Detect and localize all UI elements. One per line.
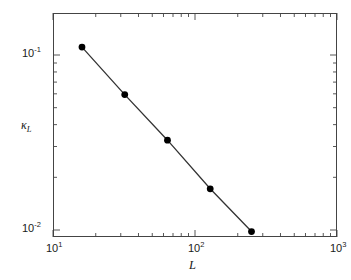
x-axis-title-symbol: L (189, 258, 196, 272)
x-tick-label-1e2: 102 (188, 243, 204, 254)
y-tick-label-1e-1: 10-1 (22, 48, 41, 59)
x-tick-label-1e3: 103 (330, 243, 346, 254)
y-tick-label-1e-2: 10-2 (22, 223, 41, 234)
cropped-header-text (0, 0, 351, 6)
x-tick-label-1e1: 101 (46, 243, 62, 254)
y-axis-title: κL (21, 119, 32, 131)
plot-frame (53, 13, 337, 237)
figure-canvas: 10-1 10-2 101 102 103 κL L (0, 0, 351, 280)
y-axis-title-symbol: κ (21, 118, 27, 132)
x-axis-title: L (189, 259, 196, 272)
y-axis-title-subscript: L (27, 124, 32, 134)
